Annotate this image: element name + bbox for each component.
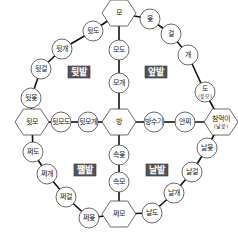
node-jjeodo: 쩌도: [23, 142, 43, 162]
node-modo: 모도: [109, 40, 129, 60]
node-dwitgeol: 뒷걸: [31, 59, 51, 79]
node-chammeogi: 참먹이(날윷): [204, 109, 238, 135]
node-gae: 개: [178, 45, 198, 65]
node-label: 뒷모도: [52, 118, 71, 126]
node-yut: 윷: [140, 9, 160, 29]
zone-label-text: 뒷밭: [71, 66, 88, 77]
node-label: 방수기: [145, 117, 163, 126]
node-jjeomo: 쩌모: [102, 201, 136, 227]
node-label: 모도: [113, 46, 126, 54]
node-label: 쩌개: [41, 169, 53, 178]
node-jjeoyut: 쩌윷: [79, 208, 99, 228]
board-nodes: 모윷걸개도(윷모)참먹이(날윷)날윷날걸날개날도쩌모쩌윷쩌걸쩌개쩌도뒷모뒷윷뒷걸…: [15, 0, 238, 228]
node-do: 도(윷모): [195, 82, 215, 102]
node-geol: 걸: [161, 24, 181, 44]
node-label: 쩌윷: [83, 213, 96, 222]
zone-label-text: 쨀밭: [77, 164, 94, 175]
zone-label-top-left: 뒷밭: [68, 66, 90, 78]
zone-label-bottom-right: 날밭: [146, 164, 168, 176]
node-dwitmodo: 뒷모도: [51, 112, 71, 132]
node-label: 걸: [168, 30, 174, 38]
node-dwitgae: 뒷개: [52, 39, 72, 59]
node-bang: 방: [102, 109, 136, 135]
node-label: 뒷모: [26, 118, 39, 126]
node-nalgae: 날개: [164, 183, 184, 203]
node-dwityut: 뒷윷: [21, 88, 41, 108]
node-sublabel: (윷모): [198, 93, 212, 100]
node-label: 속윷: [113, 151, 126, 159]
node-anjji: 안찌: [175, 112, 195, 132]
node-nalyut: 날윷: [197, 138, 217, 158]
node-dwitdo: 뒷도: [83, 21, 103, 41]
yut-board-diagram: 모윷걸개도(윷모)참먹이(날윷)날윷날걸날개날도쩌모쩌윷쩌걸쩌개쩌도뒷모뒷윷뒷걸…: [0, 0, 238, 245]
node-label: 모: [116, 9, 123, 17]
zone-label-top-right: 앞밭: [145, 66, 167, 78]
node-bangsugi: 방수기: [144, 112, 164, 132]
node-label: 뒷개: [56, 44, 68, 53]
node-label: 뒷윷: [25, 94, 38, 102]
node-jjeogeol: 쩌걸: [56, 187, 76, 207]
node-label: 개: [185, 50, 191, 59]
node-naldo: 날도: [142, 203, 162, 223]
zone-label-bottom-left: 쨀밭: [74, 164, 96, 176]
node-mogae: 모개: [109, 73, 129, 93]
zone-label-text: 앞밭: [148, 66, 165, 77]
node-label: 뒷모개: [79, 117, 97, 126]
node-dwitmogae: 뒷모개: [78, 112, 98, 132]
zone-label-text: 날밭: [149, 164, 166, 175]
node-nalgeol: 날걸: [182, 162, 202, 182]
node-dwitmo: 뒷모: [15, 109, 49, 135]
node-label: 쩌모: [113, 209, 126, 218]
node-sokyut: 속윷: [109, 145, 129, 165]
node-label: 쩌걸: [60, 192, 72, 201]
node-label: 속모: [113, 178, 126, 186]
node-label: 날도: [146, 208, 159, 217]
node-label: 날윷: [201, 143, 214, 152]
node-sokmo: 속모: [109, 172, 129, 192]
node-label: 날걸: [186, 167, 198, 176]
node-sublabel: (날윷): [214, 123, 228, 130]
node-jjeogae: 쩌개: [37, 164, 57, 184]
node-label: 날개: [168, 188, 180, 197]
node-label: 윷: [147, 15, 154, 23]
node-label: 방: [116, 117, 123, 126]
node-label: 뒷걸: [35, 65, 47, 73]
node-label: 모개: [113, 78, 125, 87]
node-label: 뒷도: [87, 27, 100, 35]
node-label: 쩌도: [27, 147, 40, 156]
node-label: 안찌: [179, 117, 191, 126]
